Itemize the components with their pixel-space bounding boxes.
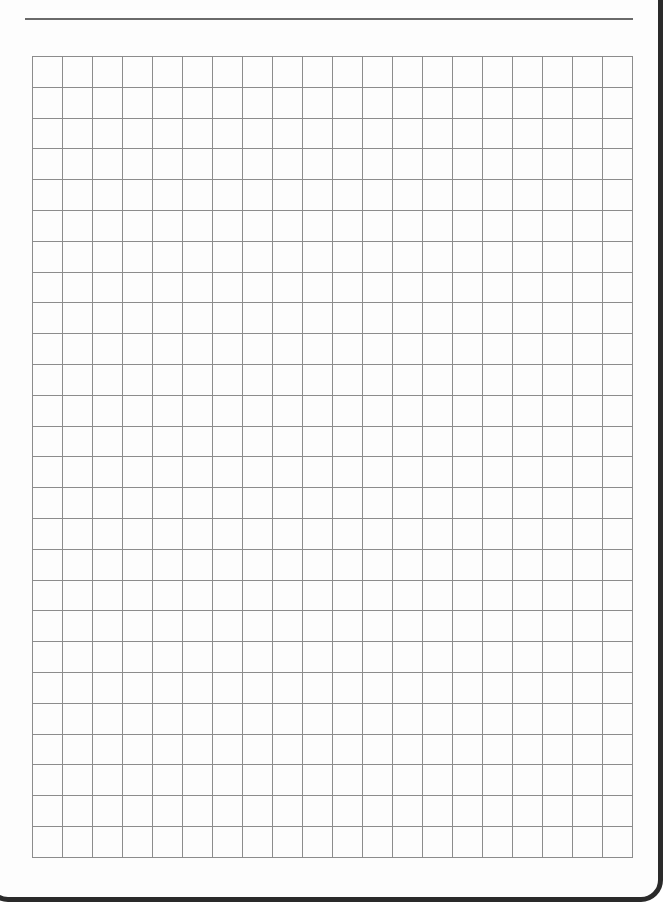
grid-cell xyxy=(152,56,182,87)
grid-cell xyxy=(272,610,302,641)
grid-cell xyxy=(122,395,152,426)
grid-cell xyxy=(182,580,212,611)
grid-cell xyxy=(452,487,482,518)
grid-cell xyxy=(302,518,332,549)
grid-cell xyxy=(242,580,272,611)
grid-cell xyxy=(182,364,212,395)
grid-cell xyxy=(452,610,482,641)
grid-cell xyxy=(272,672,302,703)
grid-cell xyxy=(482,734,512,765)
grid-cell xyxy=(152,395,182,426)
grid-cell xyxy=(362,764,392,795)
grid-cell xyxy=(182,456,212,487)
grid-cell xyxy=(92,148,122,179)
grid-cell xyxy=(212,672,242,703)
grid-cell xyxy=(182,179,212,210)
grid-cell xyxy=(482,148,512,179)
grid-cell xyxy=(242,703,272,734)
grid-cell xyxy=(512,487,542,518)
grid-cell xyxy=(602,302,632,333)
grid-cell xyxy=(422,210,452,241)
grid-cell xyxy=(242,395,272,426)
grid-cell xyxy=(92,333,122,364)
grid-cell xyxy=(542,333,572,364)
grid-cell xyxy=(542,241,572,272)
grid-cell xyxy=(602,764,632,795)
grid-cell xyxy=(272,549,302,580)
grid-cell xyxy=(362,179,392,210)
grid-cell xyxy=(242,87,272,118)
grid-cell xyxy=(362,518,392,549)
grid-cell xyxy=(572,148,602,179)
grid-cell xyxy=(62,764,92,795)
grid-cell xyxy=(422,426,452,457)
grid-cell xyxy=(302,456,332,487)
grid-cell xyxy=(212,487,242,518)
grid-cell xyxy=(512,148,542,179)
grid-cell xyxy=(452,148,482,179)
grid-cell xyxy=(482,826,512,857)
grid-cell xyxy=(92,56,122,87)
grid-cell xyxy=(272,118,302,149)
grid-cell xyxy=(212,426,242,457)
grid-cell xyxy=(182,87,212,118)
grid-cell xyxy=(62,302,92,333)
grid-cell xyxy=(122,518,152,549)
grid-cell xyxy=(542,456,572,487)
grid-cell xyxy=(542,426,572,457)
grid-cell xyxy=(242,734,272,765)
grid-cell xyxy=(392,703,422,734)
grid-cell xyxy=(302,118,332,149)
grid-cell xyxy=(32,333,62,364)
grid-cell xyxy=(452,764,482,795)
grid-cell xyxy=(602,703,632,734)
grid-cell xyxy=(482,210,512,241)
grid-cell xyxy=(332,210,362,241)
grid-cell xyxy=(152,764,182,795)
grid-cell xyxy=(362,302,392,333)
grid-cell xyxy=(422,302,452,333)
grid-cell xyxy=(362,210,392,241)
grid-cell xyxy=(362,641,392,672)
grid-cell xyxy=(32,87,62,118)
grid-cell xyxy=(422,610,452,641)
grid-cell xyxy=(122,487,152,518)
grid-cell xyxy=(182,610,212,641)
grid-cell xyxy=(212,826,242,857)
grid-cell xyxy=(182,395,212,426)
grid-cell xyxy=(422,333,452,364)
grid-cell xyxy=(392,580,422,611)
grid-cell xyxy=(542,272,572,303)
grid-cell xyxy=(392,148,422,179)
grid-cell xyxy=(182,272,212,303)
grid-cell xyxy=(482,179,512,210)
grid-cell xyxy=(572,395,602,426)
grid-cell xyxy=(482,795,512,826)
grid-cell xyxy=(92,764,122,795)
grid-cell xyxy=(152,549,182,580)
grid-cell xyxy=(212,118,242,149)
grid-cell xyxy=(572,302,602,333)
grid-cell xyxy=(452,795,482,826)
grid-cell xyxy=(62,610,92,641)
grid-cell xyxy=(152,302,182,333)
grid-cell xyxy=(392,118,422,149)
grid-cell xyxy=(32,426,62,457)
grid-cell xyxy=(122,241,152,272)
grid-cell xyxy=(422,456,452,487)
grid-cell xyxy=(422,580,452,611)
grid-cell xyxy=(182,672,212,703)
grid-cell xyxy=(362,795,392,826)
grid-cell xyxy=(152,610,182,641)
grid-cell xyxy=(92,703,122,734)
grid-cell xyxy=(482,87,512,118)
grid-cell xyxy=(332,148,362,179)
grid-cell xyxy=(152,148,182,179)
grid-cell xyxy=(212,179,242,210)
grid-cell xyxy=(482,333,512,364)
grid-cell xyxy=(182,826,212,857)
grid-cell xyxy=(482,703,512,734)
grid-cell xyxy=(332,364,362,395)
grid-cell xyxy=(512,426,542,457)
grid-cell xyxy=(602,210,632,241)
